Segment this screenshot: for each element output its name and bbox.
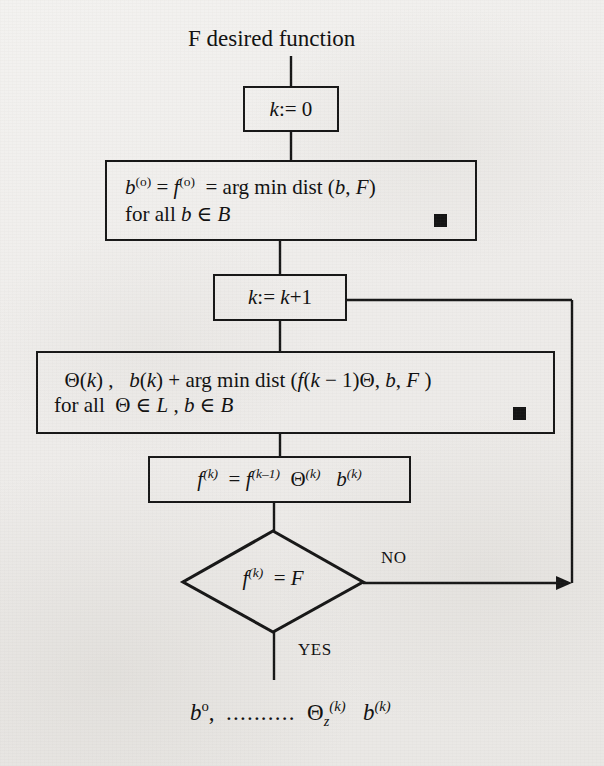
flowchart-page: F desired function k:= 0 b(o) = f(o) = a… [0,0,604,766]
node-update: f(k) = f(k–1) Θ(k) b(k) [148,456,411,503]
node-search-line1: Θ(k) , b(k) + arg min dist (f(k − 1)Θ, b… [54,369,539,391]
node-base-line1: b(o) = f(o) = arg min dist (b, F) [125,176,461,198]
end-marker-square [434,214,447,227]
node-decision-text: f(k) = F [183,566,363,591]
node-search-step: Θ(k) , b(k) + arg min dist (f(k − 1)Θ, b… [36,351,555,434]
arrowhead-no-branch [556,576,572,590]
node-init-text: k:= 0 [245,98,337,120]
diagram-title: F desired function [188,26,355,52]
node-increment: k:= k+1 [213,274,347,321]
node-init: k:= 0 [243,86,339,132]
node-update-text: f(k) = f(k–1) Θ(k) b(k) [150,468,409,490]
node-result: bo, .......... Θz(k) b(k) [190,700,391,726]
end-marker-square [513,407,526,420]
branch-label-no: NO [381,548,407,568]
node-base-case: b(o) = f(o) = arg min dist (b, F) for al… [105,160,477,241]
node-search-line2: for all Θ ∈ L , b ∈ B [54,394,539,416]
branch-label-yes: YES [298,640,332,660]
node-base-line2: for all b ∈ B [125,203,461,225]
node-increment-text: k:= k+1 [215,286,345,308]
result-dots: .......... [226,700,296,725]
